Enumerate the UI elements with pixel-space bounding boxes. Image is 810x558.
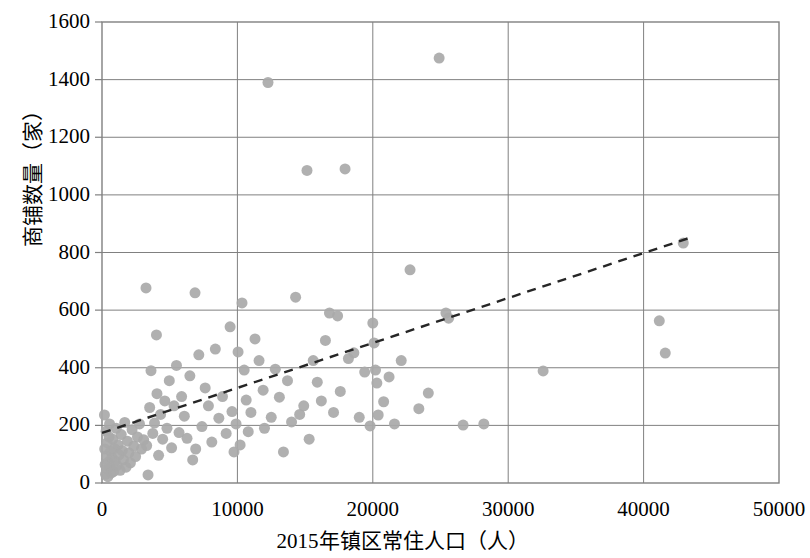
data-point [210,344,221,355]
data-point [146,365,157,376]
data-point [328,407,339,418]
data-point [396,355,407,366]
data-point [389,418,400,429]
data-point [370,365,381,376]
data-point [258,385,269,396]
data-point [320,335,331,346]
data-point [243,426,254,437]
data-point [443,313,454,324]
data-point [143,469,154,480]
data-point [190,444,201,455]
data-point [193,349,204,360]
data-point [179,411,190,422]
data-point [298,400,309,411]
data-point [335,386,346,397]
data-point [221,428,232,439]
data-point [369,337,380,348]
data-point [413,403,424,414]
data-point [235,439,246,450]
data-point [225,321,236,332]
data-point [196,421,207,432]
data-point [171,360,182,371]
data-point [161,423,172,434]
data-point [405,264,416,275]
data-point [237,297,248,308]
gridlines [102,22,779,483]
data-point [286,416,297,427]
data-point [184,370,195,381]
data-point [153,450,164,461]
data-point [200,382,211,393]
data-point [301,165,312,176]
data-point [332,310,343,321]
data-point [278,446,289,457]
data-point [176,391,187,402]
data-point [233,346,244,357]
data-point [141,440,152,451]
data-point [378,396,389,407]
data-point [245,407,256,418]
data-point [259,423,270,434]
data-point [478,418,489,429]
data-point [423,388,434,399]
data-point [187,454,198,465]
data-point [274,392,285,403]
data-points [99,53,689,483]
data-point [226,406,237,417]
data-point [155,409,166,420]
data-point [270,364,281,375]
data-point [147,428,158,439]
data-point [312,377,323,388]
data-point [304,434,315,445]
trendline [102,238,690,433]
data-point [365,420,376,431]
data-point [141,282,152,293]
data-point [282,375,293,386]
data-point [231,418,242,429]
data-point [263,77,274,88]
data-point [458,420,469,431]
data-point [434,53,445,64]
data-point [354,412,365,423]
data-point [164,375,175,386]
data-point [538,365,549,376]
data-point [373,410,384,421]
data-point [359,367,370,378]
data-point [213,413,224,424]
data-point [203,400,214,411]
data-point [157,434,168,445]
data-point [654,315,665,326]
data-point [340,163,351,174]
data-point [239,365,250,376]
data-point [250,333,261,344]
data-point [254,355,265,366]
data-point [316,395,327,406]
data-point [266,412,277,423]
data-point [348,347,359,358]
data-point [384,371,395,382]
data-point [182,433,193,444]
data-point [166,442,177,453]
data-point [241,395,252,406]
data-point [290,292,301,303]
data-point [660,348,671,359]
data-point [206,437,217,448]
data-point [371,378,382,389]
data-point [151,329,162,340]
data-point [367,318,378,329]
data-point [144,402,155,413]
data-point [190,287,201,298]
